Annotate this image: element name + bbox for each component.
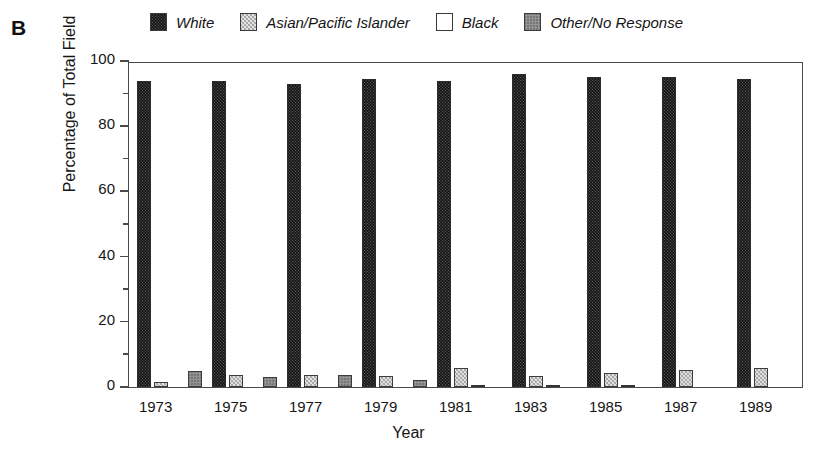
bar [379,376,393,387]
bar [737,79,751,387]
tick-mark [120,60,129,62]
bar [287,84,301,387]
x-axis-tick-label: 1975 [214,398,247,415]
bar [546,385,560,387]
y-axis-tick-label: 60 [98,180,115,197]
bar-group [654,63,729,387]
bar [362,79,376,387]
tick-mark [120,386,129,388]
bar-group [204,63,279,387]
y-axis-tick-label: 40 [98,246,115,263]
tick-mark [120,321,129,323]
x-axis-tick-label: 1983 [514,398,547,415]
bar [229,375,243,387]
bar [154,382,168,387]
bar-group [354,63,429,387]
dark-hatch-swatch [150,13,167,31]
legend-item-label: Black [462,14,499,31]
x-axis-title: Year [0,424,817,442]
legend-item-label: Other/No Response [550,14,683,31]
y-axis-tick-label: 0 [107,376,115,393]
x-axis-tick-label: 1973 [139,398,172,415]
bar-group [579,63,654,387]
panel-label: B [11,16,27,40]
bar [304,375,318,387]
bar-group [729,63,804,387]
bar [188,371,202,387]
x-axis-tick-label: 1987 [664,398,697,415]
bar [137,81,151,387]
plot-frame: 020406080100 [128,62,803,388]
bar [587,77,601,387]
bar [754,368,768,387]
legend-item: White [150,13,214,31]
chart-legend: WhiteAsian/Pacific IslanderBlackOther/No… [150,13,709,31]
bar [529,376,543,387]
y-axis-tick-label: 100 [90,50,115,67]
bar [621,385,635,387]
bar [662,77,676,387]
y-axis-tick-label: 80 [98,115,115,132]
bar-group [504,63,579,387]
bar-group [429,63,504,387]
bar [413,380,427,387]
bar-group [279,63,354,387]
tick-mark [120,256,129,258]
x-axis-tick-label: 1989 [739,398,772,415]
x-axis-tick-label: 1979 [364,398,397,415]
bar [454,368,468,387]
bar [263,377,277,387]
bar [338,375,352,387]
tick-mark [120,125,129,127]
bar [471,385,485,387]
legend-item-label: Asian/Pacific Islander [266,14,409,31]
light-hatch-swatch [240,13,257,31]
bar [437,81,451,387]
x-axis-tick-label: 1985 [589,398,622,415]
legend-item-label: White [176,14,214,31]
bar [512,74,526,387]
bar-group [129,63,204,387]
legend-item: Other/No Response [524,13,683,31]
bar [604,373,618,387]
legend-item: Black [436,13,499,31]
bar [679,370,693,387]
legend-item: Asian/Pacific Islander [240,13,409,31]
plot-area: 020406080100 [129,63,802,387]
bar [212,81,226,387]
x-axis-tick-label: 1977 [289,398,322,415]
x-axis-tick-label: 1981 [439,398,472,415]
empty-swatch [436,13,453,31]
y-axis-title: Percentage of Total Field [61,0,79,254]
y-axis-tick-label: 20 [98,311,115,328]
tick-mark [120,190,129,192]
gray-hatch-swatch [524,13,541,31]
